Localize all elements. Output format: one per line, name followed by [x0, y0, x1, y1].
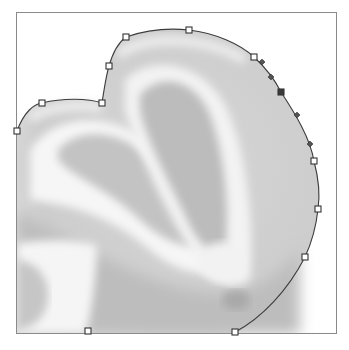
anchor-point-icon[interactable]: [186, 27, 192, 33]
anchor-point-icon[interactable]: [232, 329, 238, 335]
fruit-core: [200, 242, 244, 282]
anchor-point-icon[interactable]: [251, 54, 257, 60]
anchor-point-icon[interactable]: [39, 100, 45, 106]
image-canvas[interactable]: [0, 0, 349, 350]
anchor-point-icon[interactable]: [14, 128, 20, 134]
anchor-point-icon[interactable]: [315, 206, 321, 212]
anchor-point-icon[interactable]: [302, 254, 308, 260]
anchor-point-icon[interactable]: [311, 158, 317, 164]
anchor-point-icon[interactable]: [106, 63, 112, 69]
selected-anchor-point-icon[interactable]: [278, 89, 284, 95]
anchor-point-icon[interactable]: [123, 34, 129, 40]
anchor-point-icon[interactable]: [85, 328, 91, 334]
stem-scar: [222, 290, 250, 310]
fruit-photo: [17, 29, 319, 334]
anchor-point-icon[interactable]: [99, 100, 105, 106]
